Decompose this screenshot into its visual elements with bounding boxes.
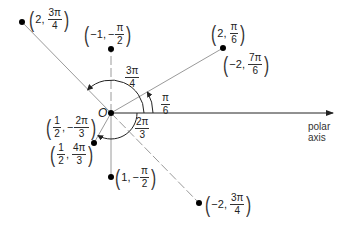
theta-den: 4 <box>234 205 240 216</box>
diagram-canvas <box>0 0 347 228</box>
paren-right: ) <box>247 194 252 216</box>
label-1-negpi-2: ( 1, − π2 ) <box>114 166 157 189</box>
label-neg1-negpi-2: ( −1, − π2 ) <box>83 23 133 46</box>
r-num: 1 <box>57 143 65 155</box>
comma: , <box>224 199 227 210</box>
theta-num: 7π <box>248 53 262 65</box>
angle-num: 3π <box>125 66 139 78</box>
angle-fraction: 2π3 <box>135 117 149 140</box>
theta-fraction: 3π4 <box>48 8 62 31</box>
theta-den: 3 <box>76 155 82 166</box>
axis-label-line1: polar <box>308 121 330 132</box>
theta-den: 3 <box>79 128 85 139</box>
comma: , <box>127 172 130 183</box>
angle-label-pi-6: π6 <box>160 93 171 116</box>
comma: , <box>223 28 226 39</box>
label-2-pi-6: ( 2, π6 ) <box>210 22 247 45</box>
r-den: 2 <box>54 128 60 139</box>
angle-fraction: π6 <box>161 93 170 116</box>
paren-right: ) <box>91 117 96 139</box>
label-neg2-7pi-6: ( −2, 7π6 ) <box>222 53 271 76</box>
paren-left: ( <box>84 24 89 46</box>
comma: , <box>103 29 106 40</box>
paren-left: ( <box>211 23 216 45</box>
comma: , <box>66 149 69 160</box>
comma: , <box>41 14 44 25</box>
angle-label-2pi-3: 2π3 <box>134 117 150 140</box>
paren-left: ( <box>223 54 228 76</box>
angle-den: 4 <box>129 78 135 89</box>
sign: − <box>133 172 139 183</box>
origin-point <box>108 110 114 116</box>
ray-neg-3pi-4-dashed <box>111 113 199 203</box>
r-value: −2 <box>229 59 242 70</box>
r-value: −1 <box>90 29 103 40</box>
r-den: 2 <box>58 155 64 166</box>
comma: , <box>62 122 65 133</box>
sign: − <box>108 29 114 40</box>
label-2-3pi-4: ( 2, 3π4 ) <box>28 8 70 31</box>
paren-right: ) <box>64 9 69 31</box>
r-fraction: 12 <box>53 116 61 139</box>
theta-fraction: π6 <box>230 22 239 45</box>
theta-den: 6 <box>231 34 237 45</box>
polar-axis-label: polar axis <box>308 121 330 143</box>
angle-num: 2π <box>135 117 149 129</box>
theta-fraction: 7π6 <box>248 53 262 76</box>
angle-fraction: 3π4 <box>125 66 139 89</box>
paren-left: ( <box>46 117 51 139</box>
theta-num: 3π <box>48 8 62 20</box>
r-num: 1 <box>53 116 61 128</box>
point-neg2-3pi-4 <box>196 200 202 206</box>
theta-num: 3π <box>230 193 244 205</box>
comma: , <box>242 59 245 70</box>
r-fraction: 12 <box>57 143 65 166</box>
point-2-pi-6 <box>220 45 226 51</box>
point-2-3pi-4 <box>19 19 25 25</box>
label-neg2-3pi-4: ( −2, 3π4 ) <box>204 193 253 216</box>
angle-den: 6 <box>163 105 169 116</box>
theta-num: 2π <box>74 116 88 128</box>
theta-fraction: 2π3 <box>74 116 88 139</box>
theta-fraction: 3π4 <box>230 193 244 216</box>
theta-num: π <box>115 23 124 35</box>
paren-right: ) <box>241 23 246 45</box>
angle-num: π <box>161 93 170 105</box>
paren-right: ) <box>89 144 94 166</box>
r-value: −2 <box>211 199 224 210</box>
label-half-4pi-3: ( 12, 4π3 ) <box>49 143 95 166</box>
theta-den: 4 <box>52 20 58 31</box>
label-half-neg2pi-3: ( 12, − 2π3 ) <box>45 116 97 139</box>
theta-den: 2 <box>117 35 123 46</box>
paren-left: ( <box>50 144 55 166</box>
paren-left: ( <box>29 9 34 31</box>
theta-fraction: 4π3 <box>72 143 86 166</box>
theta-fraction: π2 <box>140 166 149 189</box>
angle-den: 3 <box>139 129 145 140</box>
origin-label: O <box>98 106 107 120</box>
theta-num: π <box>230 22 239 34</box>
paren-left: ( <box>115 167 120 189</box>
theta-num: π <box>140 166 149 178</box>
paren-right: ) <box>126 24 131 46</box>
angle-label-3pi-4: 3π4 <box>124 66 140 89</box>
polar-coordinates-diagram: O polar axis ( 2, 3π4 ) ( −1, − π2 ) ( 2… <box>0 0 347 228</box>
sign: − <box>67 122 73 133</box>
theta-den: 2 <box>142 178 148 189</box>
paren-right: ) <box>151 167 156 189</box>
axis-label-line2: axis <box>308 132 330 143</box>
paren-left: ( <box>205 194 210 216</box>
paren-right: ) <box>265 54 270 76</box>
theta-den: 6 <box>252 65 258 76</box>
point-neg1-negpi-2 <box>108 46 114 52</box>
theta-fraction: π2 <box>115 23 124 46</box>
arc-pi-6 <box>147 92 153 113</box>
theta-num: 4π <box>72 143 86 155</box>
